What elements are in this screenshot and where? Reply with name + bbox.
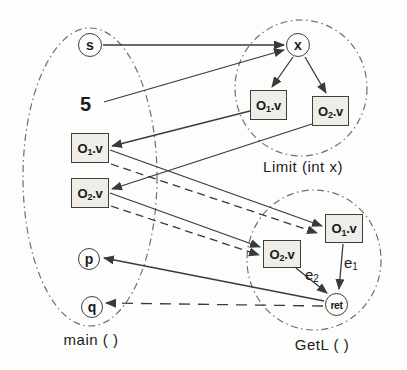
- limit-o1v-label: O1.v: [256, 98, 281, 113]
- main-o2v-node: O2.v: [71, 178, 109, 208]
- label-suffix: .v: [333, 104, 343, 119]
- label-base: O: [332, 221, 342, 236]
- label-sub: 1: [87, 147, 92, 157]
- constant-5: 5: [80, 93, 91, 116]
- edge-x-to-limit-o2v: [305, 57, 326, 93]
- label-sub: 2: [87, 192, 92, 202]
- getl-o1v-label: O1.v: [332, 221, 357, 236]
- edge-e1-getl-o1v-to-ret: [339, 244, 343, 289]
- label-suffix: .v: [284, 247, 294, 262]
- label-base: O: [256, 98, 266, 113]
- edge-main-o2v-to-getl-o2v: [110, 193, 260, 247]
- getl-region-label: GetL ( ): [282, 336, 362, 353]
- label-sub: 2: [313, 273, 319, 284]
- node-p: p: [78, 248, 100, 270]
- main-region-outline: [23, 28, 157, 326]
- edge-label-e1: e1: [344, 254, 358, 271]
- getl-o1v-node: O1.v: [325, 214, 363, 243]
- node-ret-label: ret: [330, 299, 342, 311]
- label-sub: 1: [352, 261, 358, 272]
- label-base: O: [318, 104, 328, 119]
- node-q: q: [81, 296, 103, 318]
- main-region-label: main ( ): [51, 331, 131, 348]
- edge-main-o2v-to-getl-o2v-dashed: [111, 206, 259, 255]
- edge-limit-o1v-to-main-o1v: [112, 111, 250, 146]
- edges-layer: [0, 0, 407, 370]
- edge-ret-to-q-dashed: [106, 303, 323, 306]
- main-o2v-label: O2.v: [78, 186, 103, 201]
- node-s-label: s: [86, 37, 94, 53]
- label-sub: 2: [328, 110, 333, 120]
- edge-x-to-limit-o1v: [272, 57, 293, 87]
- node-s: s: [78, 33, 102, 57]
- label-sub: 2: [279, 253, 284, 263]
- edge-label-e2: e2: [305, 266, 319, 283]
- node-ret: ret: [325, 293, 348, 316]
- limit-region-label: Limit (int x): [253, 158, 353, 175]
- region-outlines: [23, 20, 381, 330]
- node-x: x: [286, 33, 310, 57]
- node-x-label: x: [294, 37, 302, 53]
- label-suffix: .v: [346, 221, 356, 236]
- edge-limit-o2v-to-main-o2v: [112, 124, 312, 189]
- getl-o2v-node: O2.v: [263, 240, 301, 268]
- label-base: O: [270, 247, 280, 262]
- main-o1v-node: O1.v: [71, 133, 109, 163]
- main-o1v-label: O1.v: [78, 141, 103, 156]
- node-p-label: p: [85, 251, 94, 267]
- limit-o2v-label: O2.v: [318, 104, 343, 119]
- limit-o2v-node: O2.v: [312, 96, 349, 126]
- getl-o2v-label: O2.v: [270, 247, 295, 262]
- limit-o1v-node: O1.v: [250, 90, 287, 120]
- label-suffix: .v: [271, 98, 281, 113]
- label-sub: 1: [266, 104, 271, 114]
- label-suffix: .v: [92, 141, 102, 156]
- label-sub: 1: [341, 228, 346, 238]
- diagram-canvas: s 5 O1.v O2.v p q main ( ) x O1.v O2.v L…: [0, 0, 407, 370]
- label-suffix: .v: [92, 186, 102, 201]
- label-base: O: [78, 186, 88, 201]
- label-base: O: [78, 141, 88, 156]
- node-q-label: q: [88, 299, 97, 315]
